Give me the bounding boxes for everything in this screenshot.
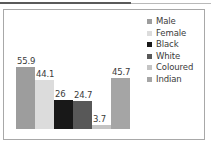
legend-item-female[interactable]: Female <box>147 28 207 39</box>
bar-white <box>73 101 92 129</box>
legend-label: Black <box>156 39 179 50</box>
legend-label: Indian <box>156 74 182 85</box>
legend-swatch-icon-coloured <box>147 65 152 70</box>
bar-value-label-white: 24.7 <box>74 90 92 100</box>
legend-swatch-icon-black <box>147 42 152 47</box>
bar-value-label-coloured: 3.7 <box>93 114 106 124</box>
top-divider-rule <box>0 2 131 4</box>
legend-item-indian[interactable]: Indian <box>147 74 207 85</box>
bar-value-label-indian: 45.7 <box>112 67 130 77</box>
bar-value-label-male: 55.9 <box>17 56 35 66</box>
legend-label: White <box>156 51 180 62</box>
bar-male <box>16 67 35 129</box>
chart-screenshot: 55.944.12624.73.745.7 MaleFemaleBlackWhi… <box>0 0 211 147</box>
legend-swatch-icon-female <box>147 31 152 36</box>
legend-item-coloured[interactable]: Coloured <box>147 62 207 73</box>
legend-item-black[interactable]: Black <box>147 39 207 50</box>
plot-area: 55.944.12624.73.745.7 <box>4 10 144 141</box>
legend-swatch-icon-male <box>147 19 152 24</box>
legend-swatch-icon-white <box>147 54 152 59</box>
bar-female <box>35 80 54 129</box>
top-divider-rule-tail <box>131 3 211 4</box>
chart-legend: MaleFemaleBlackWhiteColouredIndian <box>147 16 207 85</box>
bar-coloured <box>92 125 111 129</box>
bar-indian <box>111 78 130 129</box>
bar-value-label-black: 26 <box>55 89 65 99</box>
legend-item-white[interactable]: White <box>147 51 207 62</box>
bar-black <box>54 100 73 129</box>
legend-item-male[interactable]: Male <box>147 16 207 27</box>
chart-frame: 55.944.12624.73.745.7 MaleFemaleBlackWhi… <box>3 9 205 140</box>
bar-value-label-female: 44.1 <box>36 69 54 79</box>
legend-label: Male <box>156 16 176 27</box>
legend-swatch-icon-indian <box>147 77 152 82</box>
legend-label: Coloured <box>156 62 193 73</box>
legend-label: Female <box>156 28 186 39</box>
